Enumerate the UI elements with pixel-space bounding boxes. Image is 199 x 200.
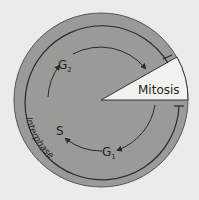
s-label: S <box>56 124 64 138</box>
cell-cycle-diagram: Mitosis G2 S G1 Interphase <box>0 0 199 200</box>
mitosis-label: Mitosis <box>138 83 180 97</box>
